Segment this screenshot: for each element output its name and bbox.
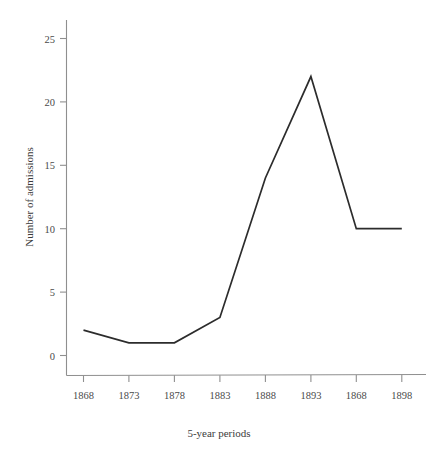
y-tick-label-10: 10 [45, 224, 56, 235]
x-tick-label-3: 1878 [164, 390, 185, 401]
x-tick-label-5: 1888 [255, 390, 276, 401]
x-tick-label-2: 1873 [118, 390, 139, 401]
x-tick-label-1: 1868 [73, 390, 94, 401]
x-tick-label-7: 1868 [346, 390, 367, 401]
y-tick-label-15: 15 [45, 160, 56, 171]
y-tick-label-0: 0 [50, 351, 55, 362]
y-axis-title: Number of admissions [23, 147, 35, 247]
line-chart-figure: 25 20 15 10 5 0 1868 1873 1878 1883 1888… [0, 0, 437, 459]
x-tick-label-6: 1893 [300, 390, 321, 401]
y-tick-label-25: 25 [45, 34, 56, 45]
y-tick-label-5: 5 [50, 287, 55, 298]
x-tick-label-8: 1898 [391, 390, 412, 401]
y-tick-label-20: 20 [45, 97, 56, 108]
chart-plot-area: 25 20 15 10 5 0 1868 1873 1878 1883 1888… [0, 0, 437, 459]
x-axis-title: 5-year periods [187, 427, 250, 439]
x-tick-label-4: 1883 [209, 390, 230, 401]
